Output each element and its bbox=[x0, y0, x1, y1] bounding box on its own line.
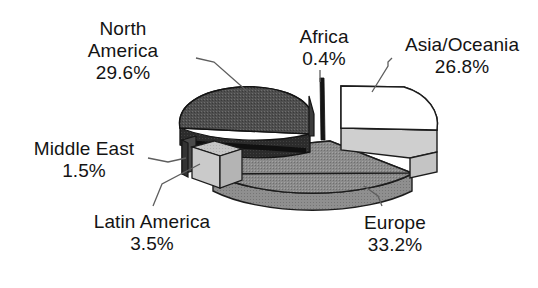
slice-label-africa: Africa 0.4% bbox=[272, 26, 376, 70]
slice-label-asia-oceania: Asia/Oceania 26.8% bbox=[386, 34, 538, 78]
pie-slice-africa[interactable] bbox=[320, 78, 325, 140]
slice-value-asia-oceania: 26.8% bbox=[386, 56, 538, 78]
slice-value-latin-america: 3.5% bbox=[66, 233, 238, 255]
slice-value-north-america: 29.6% bbox=[48, 62, 198, 84]
slice-value-africa: 0.4% bbox=[272, 48, 376, 70]
slice-value-europe: 33.2% bbox=[330, 234, 460, 256]
slice-label-middle-east: Middle East 1.5% bbox=[8, 138, 160, 182]
slice-label-latin-america: Latin America 3.5% bbox=[66, 211, 238, 255]
slice-label-europe: Europe 33.2% bbox=[330, 212, 460, 256]
slice-label-asia-oceania-line1: Asia/Oceania bbox=[386, 34, 538, 56]
chart-canvas: North America 29.6% Africa 0.4% Asia/Oce… bbox=[0, 0, 538, 288]
slice-label-north-america-line2: America bbox=[48, 40, 198, 62]
slice-label-north-america-line1: North bbox=[48, 18, 198, 40]
slice-label-europe-line1: Europe bbox=[330, 212, 460, 234]
slice-value-middle-east: 1.5% bbox=[8, 160, 160, 182]
slice-label-middle-east-line1: Middle East bbox=[8, 138, 160, 160]
slice-label-latin-america-line1: Latin America bbox=[66, 211, 238, 233]
slice-label-africa-line1: Africa bbox=[272, 26, 376, 48]
slice-label-north-america: North America 29.6% bbox=[48, 18, 198, 84]
